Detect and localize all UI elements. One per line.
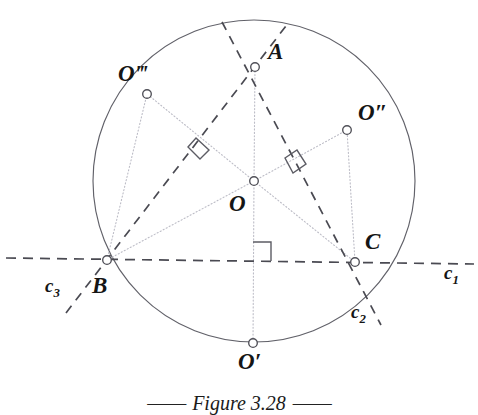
dotted-O-to-C (254, 181, 355, 262)
dotted-O-to-O3 (147, 94, 254, 181)
right-angle-marker-BC (253, 242, 271, 261)
label-point-B: B (92, 274, 107, 297)
point-marker-O1 (249, 339, 258, 348)
label-point-O-triple-prime: O‴ (118, 62, 148, 85)
label-point-A: A (268, 40, 283, 63)
line-c2 (222, 22, 381, 325)
label-point-O-prime: O′ (238, 350, 261, 373)
label-line-c3-subscript: 3 (53, 285, 59, 300)
label-line-c1: c1 (444, 263, 459, 287)
point-marker-O (250, 177, 259, 186)
point-marker-C (351, 258, 360, 267)
point-marker-B (103, 256, 112, 265)
dotted-chord-C-O2 (347, 130, 355, 262)
label-line-c3: c3 (45, 276, 60, 300)
label-point-O-double-prime: O″ (358, 101, 388, 124)
figure-container: A B C O O′ O″ O‴ c1 c2 c3 ——Figure 3.28—… (0, 0, 478, 415)
label-line-c2-subscript: 2 (359, 311, 365, 326)
label-line-c2: c2 (351, 302, 366, 326)
right-angle-marker-AB (188, 138, 209, 159)
caption-text: Figure 3.28 (192, 392, 286, 414)
line-c1 (6, 258, 474, 264)
right-angle-marker-AC (285, 150, 306, 173)
figure-caption: ——Figure 3.28—— (0, 392, 478, 415)
point-marker-O3 (143, 90, 152, 99)
point-marker-O2 (343, 126, 352, 135)
label-line-c1-subscript: 1 (452, 272, 458, 287)
dotted-chord-B-O3 (107, 94, 147, 260)
caption-dash-right: —— (293, 392, 331, 414)
label-point-C: C (365, 230, 380, 253)
point-marker-A (251, 63, 260, 72)
label-point-O: O (229, 192, 246, 215)
caption-dash-left: —— (147, 392, 185, 414)
